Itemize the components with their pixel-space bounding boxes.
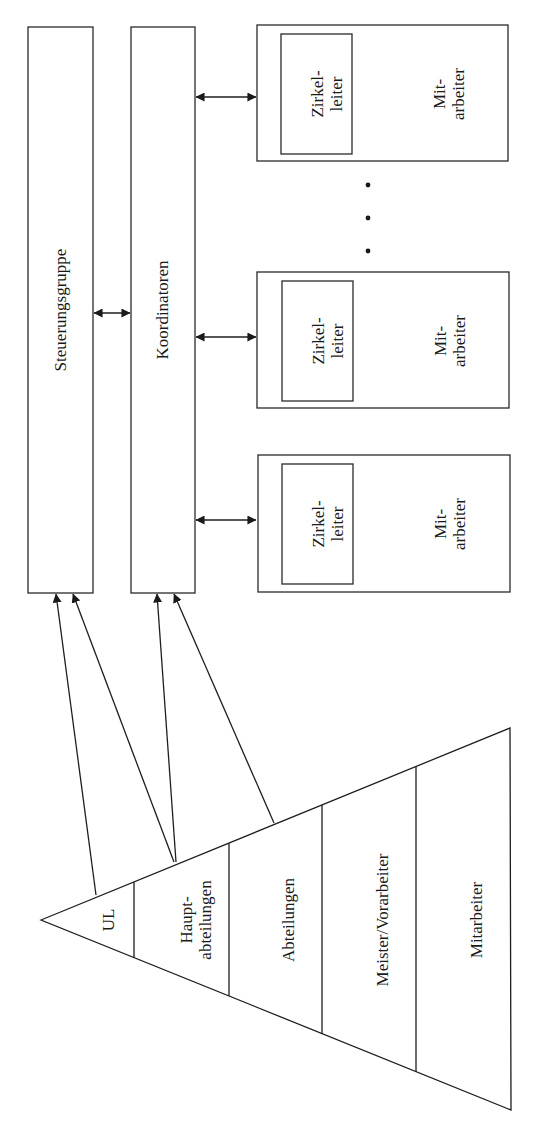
circle-2-members-label-2: arbeiter bbox=[450, 315, 469, 367]
circle-1-members-label-1: Mit- bbox=[430, 79, 449, 110]
hierarchy-pyramid: UL Haupt- abteilungen Abteilungen Meiste… bbox=[41, 728, 511, 1110]
circle-3-leader-label-2: leiter bbox=[328, 506, 347, 541]
circle-3-leader-label-1: Zirkel- bbox=[309, 500, 328, 548]
ellipsis-dots bbox=[366, 183, 371, 254]
coordinators-box: Koordinatoren bbox=[131, 27, 195, 593]
circle-1-leader-label-2: leiter bbox=[327, 76, 346, 111]
circle-2-leader-label-2: leiter bbox=[328, 323, 347, 358]
circle-1-members-label-2: arbeiter bbox=[449, 68, 468, 120]
main-departments-to-steering-arrow bbox=[73, 594, 174, 862]
circle-group-1: Zirkel- leiter Mit- arbeiter bbox=[257, 25, 508, 161]
circle-3-members-label-2: arbeiter bbox=[450, 498, 469, 550]
circle-3-members-label-1: Mit- bbox=[431, 509, 450, 540]
level-ul-label: UL bbox=[99, 909, 118, 932]
steering-group-label: Steuerungsgruppe bbox=[51, 249, 70, 372]
level-employees-label: Mitarbeiter bbox=[467, 881, 486, 958]
level-main-departments-label-1: Haupt- bbox=[177, 896, 196, 944]
organization-diagram: Steuerungsgruppe Koordinatoren Zirkel- l… bbox=[0, 0, 534, 1135]
steering-group-box: Steuerungsgruppe bbox=[28, 27, 93, 593]
circle-2-members-label-1: Mit- bbox=[431, 326, 450, 357]
circle-group-3: Zirkel- leiter Mit- arbeiter bbox=[258, 455, 510, 592]
circle-group-2: Zirkel- leiter Mit- arbeiter bbox=[257, 272, 509, 408]
main-departments-to-coordinators-arrow bbox=[157, 594, 176, 862]
departments-to-coordinators-arrow bbox=[174, 594, 274, 823]
level-main-departments-label-2: abteilungen bbox=[196, 880, 215, 960]
circle-2-leader-label-1: Zirkel- bbox=[309, 317, 328, 365]
coordinators-label: Koordinatoren bbox=[153, 260, 172, 360]
level-foremen-label: Meister/Vorarbeiter bbox=[373, 853, 392, 986]
level-departments-label: Abteilungen bbox=[279, 877, 298, 962]
circle-1-leader-label-1: Zirkel- bbox=[308, 70, 327, 118]
